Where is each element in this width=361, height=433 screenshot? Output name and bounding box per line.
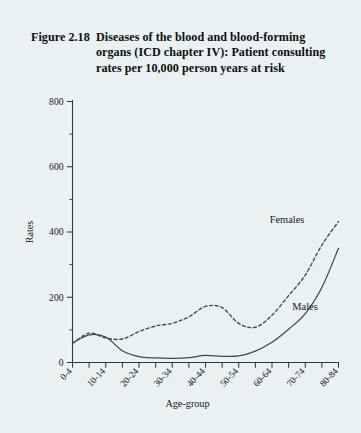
y-tick-label: 600 [49, 161, 64, 172]
chart-series [73, 222, 339, 359]
chart-axes: 02004006008000-410-1420-2430-3440-4450-5… [24, 96, 340, 409]
y-tick-label: 0 [59, 357, 64, 368]
x-tick-label: 80-84 [318, 366, 340, 389]
y-tick-label: 800 [49, 96, 64, 107]
chart-plot: 02004006008000-410-1420-2430-3440-4450-5… [0, 0, 361, 433]
x-tick-label: 30-34 [152, 366, 174, 389]
y-axis-title: Rates [24, 221, 35, 244]
x-axis-title: Age-group [165, 398, 209, 409]
females-series-label: Females [270, 214, 305, 225]
x-tick-label: 20-24 [118, 366, 140, 389]
x-tick-label: 50-54 [218, 366, 240, 389]
series-line-females [73, 222, 339, 344]
males-series-label: Males [292, 301, 317, 312]
x-tick-label: 10-14 [85, 366, 107, 389]
y-tick-label: 200 [49, 292, 64, 303]
x-tick-label: 70-74 [285, 366, 307, 389]
figure-container: Figure 2.18Diseases of the blood and blo… [0, 0, 361, 433]
x-tick-label: 60-64 [251, 366, 273, 389]
x-tick-label: 40-44 [185, 366, 207, 389]
y-tick-label: 400 [49, 226, 64, 237]
x-tick-label: 0-4 [58, 366, 74, 382]
chart-annotations: FemalesMales [270, 214, 318, 312]
